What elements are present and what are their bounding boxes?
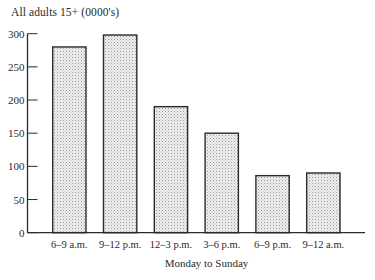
x-tick-label: 3–6 p.m.: [203, 239, 240, 250]
x-tick-label: 6–9 a.m.: [51, 239, 87, 250]
x-axis-title: Monday to Sunday: [0, 257, 375, 269]
x-tick-label: 9–12 a.m.: [302, 239, 344, 250]
bar-chart: All adults 15+ (0000's) 0501001502002503…: [0, 0, 375, 280]
plot-area: 050100150200250300 6–9 a.m.9–12 p.m.12–3…: [0, 0, 375, 280]
y-tick-label: 50: [14, 194, 26, 206]
bar-5: [307, 173, 340, 233]
bar-1: [104, 35, 137, 233]
x-axis: 6–9 a.m.9–12 p.m.12–3 p.m.3–6 p.m.6–9 p.…: [28, 233, 366, 250]
y-axis: 050100150200250300: [8, 28, 38, 239]
bar-3: [205, 133, 238, 233]
y-tick-label: 300: [8, 28, 25, 40]
y-tick-label: 200: [8, 94, 25, 106]
bars-group: [53, 35, 340, 233]
x-tick-label: 6–9 p.m.: [254, 239, 291, 250]
y-tick-label: 250: [8, 61, 25, 73]
y-tick-label: 100: [8, 160, 25, 172]
x-tick-label: 12–3 p.m.: [150, 239, 192, 250]
bar-0: [53, 47, 86, 233]
y-tick-label: 150: [8, 127, 25, 139]
y-tick-label: 0: [19, 227, 25, 239]
x-tick-label: 9–12 p.m.: [99, 239, 141, 250]
bar-4: [256, 176, 289, 233]
bar-2: [154, 107, 187, 233]
